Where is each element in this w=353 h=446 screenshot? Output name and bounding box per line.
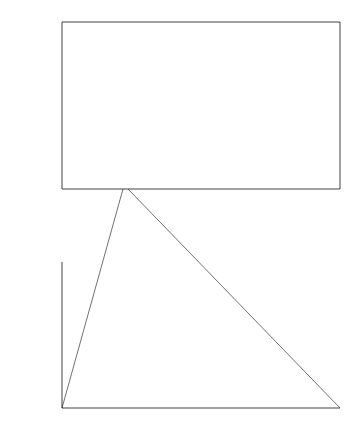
figure-root (0, 0, 353, 446)
figure-canvas (0, 0, 353, 446)
figure-background (0, 0, 353, 446)
